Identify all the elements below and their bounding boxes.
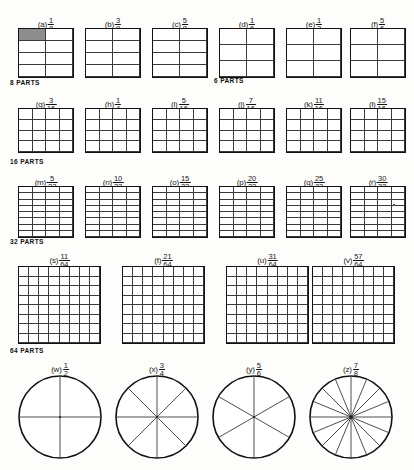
- grid-cell[interactable]: [113, 53, 140, 65]
- grid-cell[interactable]: [287, 109, 301, 120]
- grid-cell[interactable]: [351, 29, 378, 45]
- grid-cell[interactable]: [167, 120, 181, 131]
- fraction-grid-a[interactable]: [18, 28, 74, 78]
- grid-cell[interactable]: [257, 267, 267, 277]
- grid-cell[interactable]: [374, 305, 384, 315]
- grid-cell[interactable]: [153, 131, 167, 142]
- fraction-grid-i[interactable]: [152, 108, 208, 153]
- grid-cell[interactable]: [328, 141, 342, 152]
- grid-cell[interactable]: [19, 131, 33, 142]
- grid-cell[interactable]: [364, 277, 374, 287]
- grid-cell[interactable]: [133, 286, 143, 296]
- grid-cell[interactable]: [143, 324, 153, 334]
- grid-cell[interactable]: [180, 65, 207, 77]
- grid-cell[interactable]: [278, 277, 288, 287]
- fraction-grid-c[interactable]: [152, 28, 208, 78]
- grid-cell[interactable]: [261, 141, 275, 152]
- grid-cell[interactable]: [328, 131, 342, 142]
- grid-cell[interactable]: [100, 120, 114, 131]
- grid-cell[interactable]: [365, 109, 379, 120]
- grid-cell[interactable]: [268, 267, 278, 277]
- grid-cell[interactable]: [354, 267, 364, 277]
- grid-cell[interactable]: [100, 231, 114, 237]
- grid-cell[interactable]: [123, 277, 133, 287]
- grid-cell[interactable]: [384, 277, 394, 287]
- grid-cell[interactable]: [364, 324, 374, 334]
- grid-cell[interactable]: [351, 109, 365, 120]
- grid-cell[interactable]: [333, 267, 343, 277]
- grid-cell[interactable]: [323, 267, 333, 277]
- grid-cell[interactable]: [354, 324, 364, 334]
- grid-cell[interactable]: [301, 131, 315, 142]
- grid-cell[interactable]: [247, 141, 261, 152]
- grid-cell[interactable]: [133, 305, 143, 315]
- grid-cell[interactable]: [33, 109, 47, 120]
- grid-cell[interactable]: [86, 231, 100, 237]
- grid-cell[interactable]: [153, 109, 167, 120]
- grid-cell[interactable]: [143, 296, 153, 306]
- grid-cell[interactable]: [298, 324, 308, 334]
- grid-cell[interactable]: [314, 120, 328, 131]
- grid-cell[interactable]: [90, 296, 100, 306]
- grid-cell[interactable]: [194, 334, 204, 344]
- grid-cell[interactable]: [257, 286, 267, 296]
- fraction-grid-r[interactable]: [350, 186, 406, 238]
- grid-cell[interactable]: [60, 305, 70, 315]
- grid-cell[interactable]: [86, 29, 113, 41]
- fraction-grid-h[interactable]: [85, 108, 141, 153]
- grid-cell[interactable]: [39, 305, 49, 315]
- grid-cell[interactable]: [333, 324, 343, 334]
- grid-cell[interactable]: [194, 277, 204, 287]
- grid-cell[interactable]: [29, 315, 39, 325]
- grid-cell[interactable]: [184, 277, 194, 287]
- grid-cell[interactable]: [365, 231, 379, 237]
- grid-cell[interactable]: [220, 61, 247, 77]
- grid-cell[interactable]: [333, 277, 343, 287]
- grid-cell[interactable]: [343, 315, 353, 325]
- grid-cell[interactable]: [194, 120, 208, 131]
- grid-cell[interactable]: [127, 231, 141, 237]
- grid-cell[interactable]: [19, 141, 33, 152]
- grid-cell[interactable]: [354, 286, 364, 296]
- grid-cell[interactable]: [364, 267, 374, 277]
- grid-cell[interactable]: [287, 231, 301, 237]
- grid-cell[interactable]: [184, 286, 194, 296]
- grid-cell[interactable]: [351, 45, 378, 61]
- grid-cell[interactable]: [164, 305, 174, 315]
- grid-cell[interactable]: [247, 29, 274, 45]
- grid-cell[interactable]: [174, 305, 184, 315]
- grid-cell[interactable]: [298, 277, 308, 287]
- grid-cell[interactable]: [220, 141, 234, 152]
- grid-cell[interactable]: [374, 334, 384, 344]
- grid-cell[interactable]: [80, 315, 90, 325]
- grid-cell[interactable]: [288, 277, 298, 287]
- grid-cell[interactable]: [268, 286, 278, 296]
- grid-cell[interactable]: [298, 296, 308, 306]
- grid-cell[interactable]: [323, 334, 333, 344]
- grid-cell[interactable]: [237, 324, 247, 334]
- grid-cell[interactable]: [237, 286, 247, 296]
- grid-cell[interactable]: [257, 277, 267, 287]
- grid-cell[interactable]: [33, 141, 47, 152]
- grid-cell[interactable]: [153, 120, 167, 131]
- grid-cell[interactable]: [127, 120, 141, 131]
- grid-cell[interactable]: [298, 315, 308, 325]
- grid-cell[interactable]: [287, 141, 301, 152]
- grid-cell[interactable]: [247, 120, 261, 131]
- grid-cell[interactable]: [288, 334, 298, 344]
- grid-cell[interactable]: [227, 315, 237, 325]
- grid-cell[interactable]: [164, 267, 174, 277]
- grid-cell[interactable]: [298, 305, 308, 315]
- grid-cell[interactable]: [46, 29, 73, 41]
- fraction-grid-m[interactable]: [18, 186, 74, 238]
- grid-cell[interactable]: [39, 286, 49, 296]
- grid-cell[interactable]: [384, 296, 394, 306]
- grid-cell[interactable]: [174, 277, 184, 287]
- grid-cell[interactable]: [323, 277, 333, 287]
- fraction-grid-d[interactable]: [219, 28, 275, 78]
- fraction-grid-q[interactable]: [286, 186, 342, 238]
- fraction-grid-k[interactable]: [286, 108, 342, 153]
- grid-cell[interactable]: [278, 305, 288, 315]
- fraction-grid-s[interactable]: [18, 266, 101, 344]
- grid-cell[interactable]: [70, 286, 80, 296]
